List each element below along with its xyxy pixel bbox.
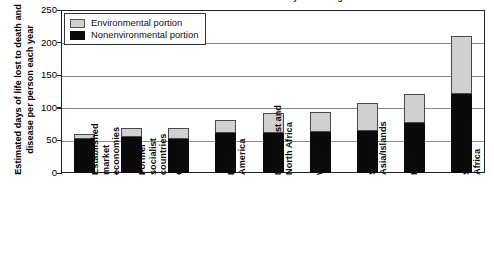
y-axis-title: Estimated days of life lost to death and… [13,0,36,180]
y-tick-label-100: 100 [31,103,57,112]
x-tick-label-8: India [409,89,420,175]
y-tick-label-250: 250 [31,5,57,14]
x-axis-labels: Established market economiesFormer socia… [61,175,485,265]
x-tick-label-2: Former socialist countries [137,89,169,175]
chart-title: Environmental Burden by World Region [150,0,400,2]
legend-swatch-nonenv-icon [70,31,85,40]
chart-legend: Environmental portionNonenvironmental po… [64,13,206,45]
legend-label: Nonenvironmental portion [91,30,198,40]
y-tick-label-50: 50 [31,135,57,144]
y-tick-label-0: 0 [31,168,57,177]
legend-label: Environmental portion [91,18,182,28]
x-tick-label-5: Middle East and North Africa [273,89,294,175]
x-tick-label-1: Established market economies [90,89,122,175]
legend-item-env: Environmental portion [70,17,198,29]
legend-swatch-env-icon [70,19,85,28]
y-tick-label-200: 200 [31,38,57,47]
x-tick-label-3: China [174,89,185,175]
x-tick-label-4: Latin America [226,89,247,175]
y-tick-label-150: 150 [31,70,57,79]
x-tick-label-9: Sub-Saharan Africa [461,89,482,175]
chart-figure: Environmental Burden by World Region Est… [0,0,494,265]
bar-segment-environmental [451,36,472,94]
x-tick-label-7: Southeast Asia/Islands [367,89,388,175]
x-tick-label-6: World [315,89,326,175]
legend-item-nonenv: Nonenvironmental portion [70,29,198,41]
